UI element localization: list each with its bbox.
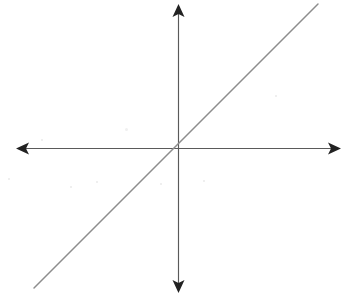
- coordinate-plane-svg: [0, 0, 352, 306]
- plotted-line-y-equals-x: [34, 4, 318, 288]
- graph-figure: [0, 0, 352, 306]
